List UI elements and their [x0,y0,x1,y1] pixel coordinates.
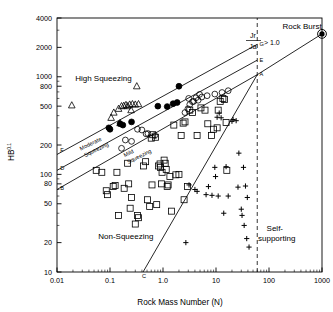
y-tick-label: 80 [44,179,52,188]
jr-relation: > 1.0 [264,39,280,46]
node-label-B: B [60,185,64,191]
marker-filled-circle [176,83,182,89]
y-tick-label: 4000 [36,14,52,23]
zone-label: Rock Burst [283,22,323,31]
x-tick-label: 0.1 [105,276,115,285]
y-tick-label: 20 [44,238,52,247]
jr-numerator: Jr [250,32,257,39]
node-label-A: A [259,71,263,77]
y-tick-label: 500 [40,102,52,111]
x-tick-label: 10 [212,276,220,285]
chart-container: 0.010.11.0101001000 10205080100200500800… [0,0,333,312]
marker-rock-burst-core [319,31,324,36]
y-tick-label: 10 [44,268,52,277]
zone-label: Self- [267,224,284,233]
y-tick-label: 800 [40,82,52,91]
node-label-F: F [60,147,64,153]
marker-filled-circle [120,122,126,128]
marker-filled-circle [106,125,112,131]
marker-filled-circle [129,119,135,125]
node-label-E: E [259,57,263,63]
zone-label: High Squeezing [75,74,131,83]
x-tick-label: 1.0 [158,276,168,285]
x-axis-title: Rock Mass Number (N) [137,298,223,307]
x-tick-label: 0.01 [50,276,64,285]
jr-denominator: Ja [249,43,257,50]
marker-filled-circle [155,103,161,109]
squeezing-classification-chart: 0.010.11.0101001000 10205080100200500800… [0,0,333,312]
marker-filled-circle [164,104,170,110]
y-tick-label: 1000 [36,72,52,81]
x-tick-label: 100 [263,276,275,285]
y-tick-label: 50 [44,199,52,208]
node-label-C: C [142,273,146,279]
node-label-D: D [60,165,64,171]
marker-filled-circle [174,100,180,106]
zone-label: supporting [258,234,295,243]
y-tick-label: 100 [40,170,52,179]
x-tick-label: 1000 [314,276,330,285]
y-tick-label: 2000 [36,43,52,52]
y-tick-label: 200 [40,141,52,150]
zone-label: Non-Squeezing [98,232,153,241]
